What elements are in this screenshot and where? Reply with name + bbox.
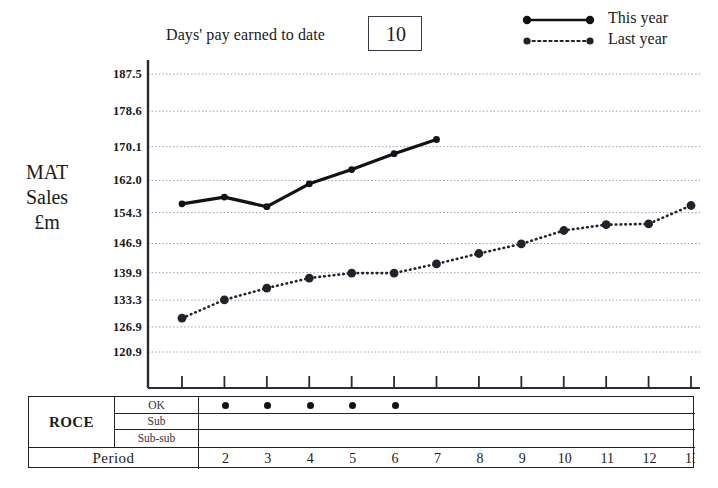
period-number: 6: [380, 448, 410, 469]
roce-ok-marker: [264, 402, 271, 409]
period-number: 13: [677, 448, 695, 469]
period-number: 12: [635, 448, 665, 469]
roce-track-sub[interactable]: [199, 414, 695, 431]
data-point[interactable]: [475, 249, 484, 258]
data-point[interactable]: [559, 226, 568, 235]
roce-sublabel-sub-sub: Sub-sub: [115, 430, 199, 447]
data-point[interactable]: [347, 269, 356, 278]
roce-track-sub-sub[interactable]: [199, 430, 695, 447]
data-point[interactable]: [644, 220, 653, 229]
period-row-label: Period: [29, 447, 199, 469]
period-number: 11: [592, 448, 622, 469]
period-number: 7: [423, 448, 453, 469]
period-number: 3: [253, 448, 283, 469]
chart-page: Days' pay earned to date 10 This year La…: [0, 0, 718, 488]
roce-ok-marker: [349, 402, 356, 409]
data-point[interactable]: [262, 284, 271, 293]
data-point[interactable]: [179, 200, 186, 207]
roce-sublabel-sub: Sub: [115, 414, 199, 431]
roce-track-ok[interactable]: [199, 397, 695, 414]
period-number: 5: [338, 448, 368, 469]
data-point[interactable]: [391, 150, 398, 157]
series-line-this-year: [182, 140, 437, 207]
data-point[interactable]: [433, 136, 440, 143]
roce-row-label: ROCE: [29, 397, 115, 447]
roce-sublabel-ok: OK: [115, 397, 199, 414]
data-point[interactable]: [306, 180, 313, 187]
roce-table: ROCE OK Sub Sub-sub Period 1234567891011…: [28, 396, 694, 468]
data-point[interactable]: [348, 166, 355, 173]
data-point[interactable]: [305, 274, 314, 283]
period-number: 10: [550, 448, 580, 469]
data-point[interactable]: [432, 260, 441, 269]
roce-ok-marker: [307, 402, 314, 409]
data-point[interactable]: [517, 240, 526, 249]
data-point[interactable]: [602, 220, 611, 229]
period-number: 4: [295, 448, 325, 469]
roce-ok-marker: [392, 402, 399, 409]
period-number: 9: [507, 448, 537, 469]
roce-ok-marker: [222, 402, 229, 409]
data-point[interactable]: [687, 201, 696, 210]
data-point[interactable]: [263, 203, 270, 210]
period-number: 8: [465, 448, 495, 469]
data-point[interactable]: [178, 314, 187, 323]
data-point[interactable]: [220, 295, 229, 304]
data-point[interactable]: [390, 269, 399, 278]
data-point[interactable]: [221, 194, 228, 201]
period-number-track: 12345678910111213: [199, 447, 695, 469]
period-number: 2: [210, 448, 240, 469]
